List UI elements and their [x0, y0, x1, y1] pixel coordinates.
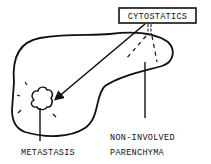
dashed-ray-right — [152, 36, 157, 62]
liver-diagram: CYTOSTATICS METASTASIS NON-INVOLVED PARE… — [0, 0, 211, 164]
cytostatics-label: CYTOSTATICS — [128, 12, 187, 22]
liver-outline — [12, 33, 173, 136]
metastasis-blob — [31, 87, 52, 110]
parenchyma-label: PARENCHYMA — [110, 148, 165, 158]
cytostatics-label-box: CYTOSTATICS — [119, 8, 196, 23]
metastasis-label: METASTASIS — [21, 148, 75, 158]
non-involved-label: NON-INVOLVED — [110, 133, 175, 143]
dashed-ray-left — [125, 36, 146, 60]
